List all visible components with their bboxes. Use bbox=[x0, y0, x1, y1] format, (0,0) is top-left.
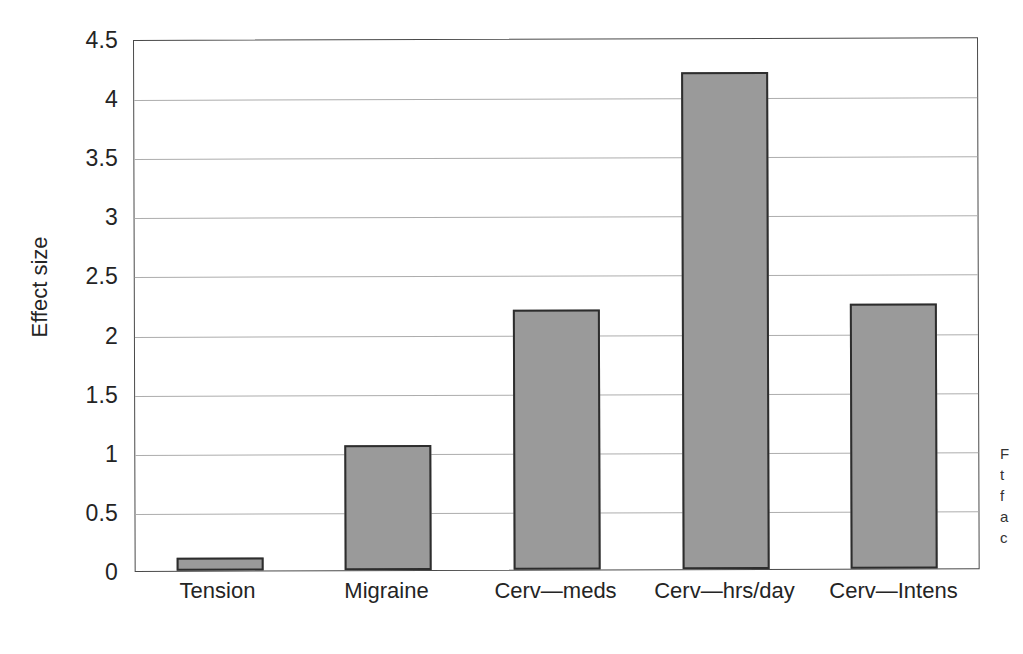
bar bbox=[850, 304, 938, 569]
margin-caption-line: c bbox=[1000, 527, 1023, 548]
x-axis-tick-label: Cerv—Intens bbox=[809, 578, 978, 612]
bar-slot bbox=[303, 40, 473, 571]
bar bbox=[176, 558, 263, 571]
bar bbox=[345, 445, 432, 571]
x-axis-tick-labels: TensionMigraineCerv—medsCerv—hrs/dayCerv… bbox=[133, 578, 978, 612]
y-axis-tick-label: 3 bbox=[105, 204, 118, 231]
bar-slot bbox=[640, 39, 810, 570]
bar-slot bbox=[471, 39, 641, 570]
plot-area bbox=[133, 37, 980, 572]
margin-caption-line: f bbox=[1000, 485, 1023, 506]
bars-layer bbox=[134, 38, 979, 571]
y-axis-tick-label: 4 bbox=[105, 86, 118, 113]
y-axis-tick-label: 2.5 bbox=[85, 263, 118, 290]
x-axis-tick-label: Tension bbox=[133, 578, 302, 612]
margin-caption-line: a bbox=[1000, 506, 1023, 527]
margin-caption-line: i bbox=[1000, 548, 1023, 553]
y-axis-tick-label: 2 bbox=[105, 322, 118, 349]
bar-chart-figure: Effect size 00.511.522.533.544.5 Tension… bbox=[0, 0, 1023, 654]
y-axis-tick-labels: 00.511.522.533.544.5 bbox=[60, 40, 126, 572]
y-axis-tick-label: 0.5 bbox=[85, 499, 118, 526]
y-axis-tick-label: 3.5 bbox=[85, 145, 118, 172]
margin-caption-line: t bbox=[1000, 464, 1023, 485]
y-axis-tick-label: 1.5 bbox=[85, 381, 118, 408]
bar bbox=[681, 72, 770, 569]
margin-caption-cropped: Ftfaci bbox=[1000, 443, 1023, 553]
y-axis-title: Effect size bbox=[27, 217, 53, 357]
x-axis-tick-label: Migraine bbox=[302, 578, 471, 612]
y-axis-tick-label: 0 bbox=[105, 559, 118, 586]
x-axis-tick-label: Cerv—meds bbox=[471, 578, 640, 612]
chart-page: Effect size 00.511.522.533.544.5 Tension… bbox=[0, 0, 1023, 654]
y-axis-tick-label: 4.5 bbox=[85, 27, 118, 54]
bar bbox=[513, 309, 601, 569]
margin-caption-line: F bbox=[1000, 443, 1023, 464]
y-axis-tick-label: 1 bbox=[105, 440, 118, 467]
bar-slot bbox=[808, 38, 978, 569]
bar-slot bbox=[134, 40, 304, 571]
x-axis-tick-label: Cerv—hrs/day bbox=[640, 578, 809, 612]
